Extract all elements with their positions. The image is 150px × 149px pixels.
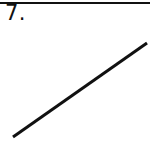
diagonal-line-segment bbox=[13, 43, 147, 137]
line-graph-svg bbox=[0, 0, 150, 149]
plot-area bbox=[0, 0, 150, 149]
figure-panel: 7. bbox=[0, 0, 150, 149]
